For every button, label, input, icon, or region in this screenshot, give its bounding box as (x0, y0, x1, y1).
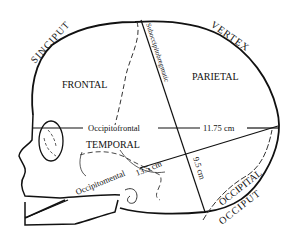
orbit (39, 121, 63, 161)
label-parietal: PARIETAL (192, 71, 239, 82)
occipitomental-line-chin (25, 200, 68, 218)
suboccipitobregmatic-line (141, 20, 205, 212)
label-vertex: VERTEX (209, 19, 252, 54)
orbit-detail (44, 130, 56, 156)
value-occipitofrontal: 11.75 cm (203, 123, 235, 133)
label-occipitofrontal: Occipitofrontal (88, 123, 141, 133)
mastoid-detail (125, 189, 137, 204)
label-suboccipitobregmatic: Suboccipitobregmatic (144, 22, 171, 83)
label-temporal: TEMPORAL (86, 139, 140, 150)
coronal-suture (115, 22, 138, 125)
label-sinciput: SINCIPUT (28, 19, 72, 66)
fetal-skull-diagram: FRONTAL PARIETAL TEMPORAL OCCIPITAL SINC… (0, 0, 290, 235)
label-frontal: FRONTAL (62, 79, 107, 90)
